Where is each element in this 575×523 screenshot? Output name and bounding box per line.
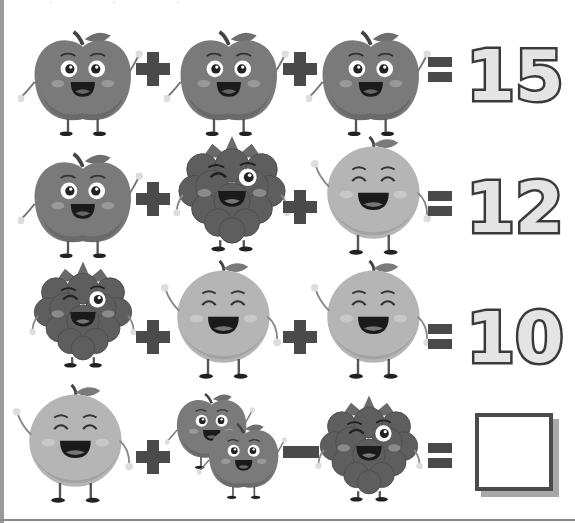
apple-row1-term1: [18, 18, 143, 143]
equals-icon: [428, 324, 454, 350]
equals-icon: [428, 191, 454, 217]
result-number-row3: 10: [460, 300, 570, 370]
plus-icon: [136, 182, 170, 216]
equals-icon: [428, 443, 454, 469]
svg-text:10: 10: [466, 300, 563, 370]
svg-text:15: 15: [466, 38, 563, 108]
orange-row4-term1: [10, 382, 135, 507]
apple-row1-term2: [164, 18, 289, 143]
left-border: [0, 0, 4, 523]
result-number-row1: 15: [460, 38, 570, 108]
orange-row2-term3: [308, 134, 433, 259]
orange-row3-term2: [158, 258, 283, 383]
raspberry-row3-term1: [28, 258, 138, 368]
equals-icon: [428, 57, 454, 83]
orange-row3-term3: [308, 258, 433, 383]
raspberry-row2-term2: [172, 132, 292, 252]
apple-row4-term2b: [197, 414, 287, 504]
result-number-row2: 12: [460, 170, 570, 240]
apple-row1-term3: [306, 18, 431, 143]
cropped-header-text: ' ' ': [50, 0, 209, 7]
raspberry-row4-term3: [314, 392, 424, 502]
svg-text:12: 12: [466, 170, 563, 240]
bottom-border: [0, 519, 575, 521]
answer-input-box[interactable]: [475, 413, 553, 491]
apple-row2-term1: [18, 140, 143, 265]
